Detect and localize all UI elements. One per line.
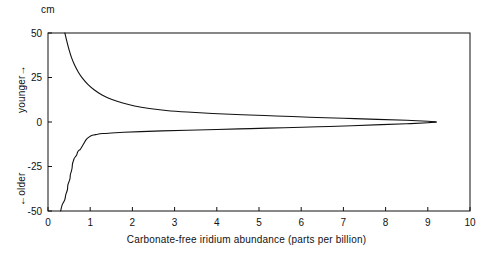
y-tick-label: -50 (28, 206, 43, 217)
y-tick-label: 0 (36, 117, 42, 128)
y-tick-label: 50 (31, 28, 43, 39)
y-axis-younger-label: younger→ (16, 65, 27, 113)
x-tick-label: 8 (383, 217, 389, 228)
iridium-abundance-figure: cm younger→ ←older Carbonate-free iridiu… (0, 0, 493, 258)
curve-upper-envelope (65, 33, 436, 122)
x-tick-label: 3 (172, 217, 178, 228)
curve-lower-envelope (61, 122, 437, 211)
y-tick-label: -25 (28, 161, 43, 172)
x-tick-label: 10 (464, 217, 476, 228)
y-axis-unit-label: cm (41, 4, 55, 15)
x-tick-label: 1 (87, 217, 93, 228)
plot-frame (48, 33, 470, 211)
y-tick-label: 25 (31, 72, 43, 83)
x-tick-label: 4 (214, 217, 220, 228)
x-tick-label: 6 (298, 217, 304, 228)
x-tick-label: 9 (425, 217, 431, 228)
plot-canvas: 01234567891050250-25-50 (0, 0, 493, 258)
x-tick-label: 2 (130, 217, 136, 228)
x-tick-label: 7 (341, 217, 347, 228)
x-tick-label: 5 (256, 217, 262, 228)
x-tick-label: 0 (45, 217, 51, 228)
x-axis-title: Carbonate-free iridium abundance (parts … (0, 234, 493, 245)
y-axis-older-label: ←older (16, 173, 27, 206)
